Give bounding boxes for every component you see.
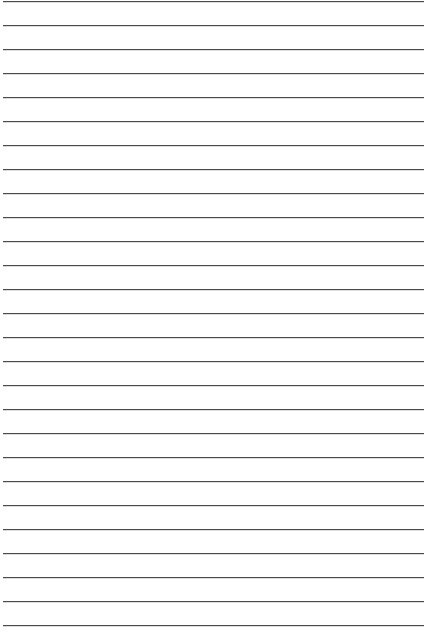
ruled-line bbox=[3, 601, 424, 602]
ruled-line bbox=[3, 433, 424, 434]
ruled-line bbox=[3, 1, 424, 2]
ruled-line bbox=[3, 529, 424, 530]
ruled-line bbox=[3, 97, 424, 98]
ruled-line bbox=[3, 481, 424, 482]
ruled-line bbox=[3, 217, 424, 218]
ruled-line bbox=[3, 193, 424, 194]
ruled-line bbox=[3, 121, 424, 122]
ruled-line bbox=[3, 169, 424, 170]
ruled-line bbox=[3, 457, 424, 458]
ruled-line bbox=[3, 385, 424, 386]
ruled-line bbox=[3, 241, 424, 242]
ruled-line bbox=[3, 145, 424, 146]
ruled-line bbox=[3, 361, 424, 362]
ruled-line bbox=[3, 49, 424, 50]
ruled-line bbox=[3, 577, 424, 578]
ruled-line bbox=[3, 553, 424, 554]
ruled-line bbox=[3, 289, 424, 290]
ruled-line bbox=[3, 73, 424, 74]
lined-paper-page bbox=[0, 0, 427, 637]
ruled-line bbox=[3, 313, 424, 314]
ruled-line bbox=[3, 625, 424, 626]
ruled-line bbox=[3, 409, 424, 410]
ruled-line bbox=[3, 337, 424, 338]
ruled-line bbox=[3, 265, 424, 266]
ruled-line bbox=[3, 25, 424, 26]
ruled-line bbox=[3, 505, 424, 506]
